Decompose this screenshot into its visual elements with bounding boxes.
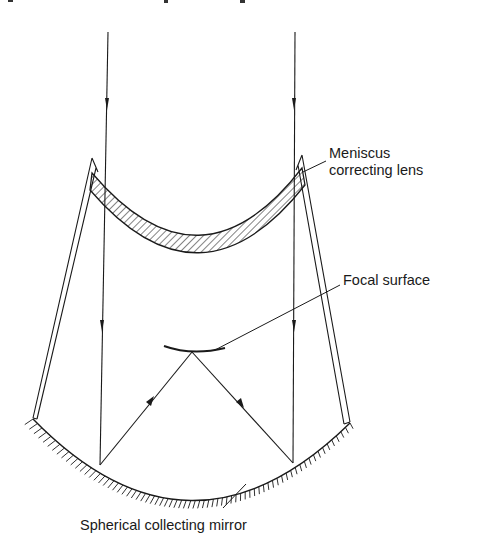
arrow-down-icon	[100, 320, 104, 332]
focal-surface	[164, 346, 225, 352]
right-wall	[296, 155, 350, 424]
focal-surface-label: Focal surface	[343, 272, 430, 289]
lens-label-line-1: Meniscus	[329, 145, 423, 162]
arrow-down-icon	[292, 320, 296, 332]
meniscus-lens	[90, 168, 305, 253]
left-incident-ray	[100, 32, 108, 465]
tube-walls	[33, 155, 350, 424]
arrow-down-icon	[292, 98, 296, 110]
arrow-down-icon	[105, 98, 109, 110]
right-incident-ray	[293, 32, 295, 463]
spherical-mirror	[33, 419, 350, 501]
mirror-leader	[223, 484, 246, 508]
top-edge-fragments	[8, 0, 245, 3]
lens-label: Meniscus correcting lens	[329, 145, 423, 179]
reflected-arrowheads	[146, 396, 244, 408]
lens-label-line-2: correcting lens	[329, 162, 423, 179]
reflected-rays	[100, 352, 293, 465]
left-wall	[33, 158, 98, 419]
mirror-hatching	[25, 419, 353, 508]
lens-leader	[303, 161, 326, 172]
focal-leader	[215, 285, 340, 350]
arrow-up-icon	[236, 398, 244, 408]
mirror-label: Spherical collecting mirror	[80, 517, 247, 534]
